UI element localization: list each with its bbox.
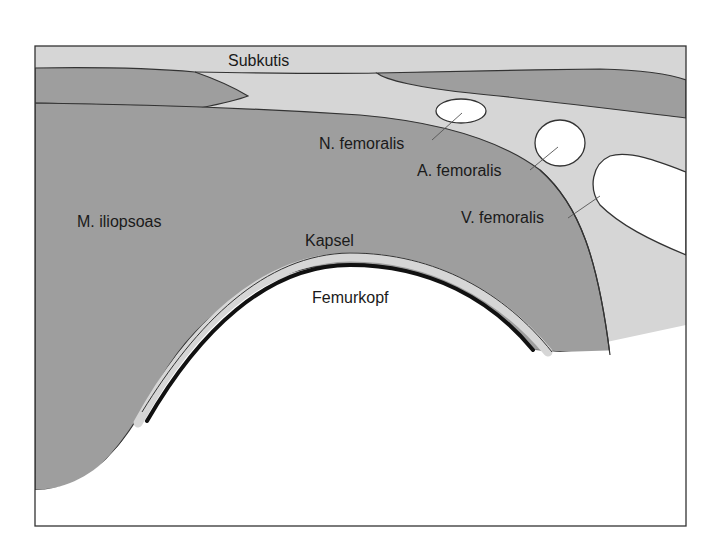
label-subkutis: Subkutis (228, 52, 289, 69)
label-femurkopf: Femurkopf (312, 289, 389, 306)
hip-cross-section-diagram: Subkutis N. femoralis A. femoralis V. fe… (0, 0, 718, 554)
label-n-femoralis: N. femoralis (319, 135, 404, 152)
n-femoralis-shape (436, 99, 486, 123)
label-v-femoralis: V. femoralis (461, 209, 544, 226)
label-a-femoralis: A. femoralis (417, 162, 501, 179)
a-femoralis-shape (535, 120, 585, 166)
label-m-iliopsoas: M. iliopsoas (77, 213, 161, 230)
label-kapsel: Kapsel (305, 232, 354, 249)
